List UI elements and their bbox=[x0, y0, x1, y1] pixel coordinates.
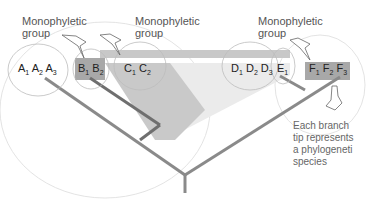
tip-c: C1 C2 bbox=[124, 62, 151, 76]
note-branch-tip: Each branch tip represents a phylogeneti… bbox=[293, 120, 354, 168]
tip-a: A1 A2 A3 bbox=[18, 62, 57, 76]
tip-e: E1 bbox=[277, 62, 288, 76]
label-group-middle: Monophyletic group bbox=[135, 15, 200, 39]
tip-d: D1 D2 D3 bbox=[231, 62, 273, 76]
branch-e bbox=[280, 76, 305, 90]
tip-f: F1 F2 F3 bbox=[309, 62, 347, 76]
bar-top bbox=[100, 50, 290, 58]
tip-b: B1 B2 bbox=[78, 62, 104, 76]
label-group-right: Monophyletic group bbox=[258, 15, 323, 39]
label-group-left: Monophyletic group bbox=[22, 15, 87, 39]
